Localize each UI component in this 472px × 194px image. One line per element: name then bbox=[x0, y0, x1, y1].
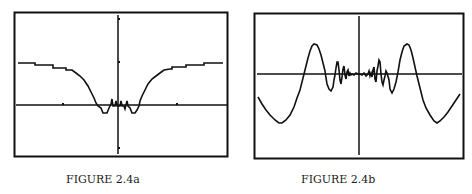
caption-b: FIGURE 2.4b bbox=[301, 173, 375, 186]
figures-canvas: FIGURE 2.4a FIGURE 2.4b bbox=[0, 0, 472, 194]
figure-2-4a-plot: FIGURE 2.4a bbox=[15, 13, 228, 187]
plot-frame-a bbox=[15, 13, 228, 157]
caption-a: FIGURE 2.4a bbox=[66, 173, 140, 186]
figure-2-4b-plot: FIGURE 2.4b bbox=[255, 14, 464, 187]
